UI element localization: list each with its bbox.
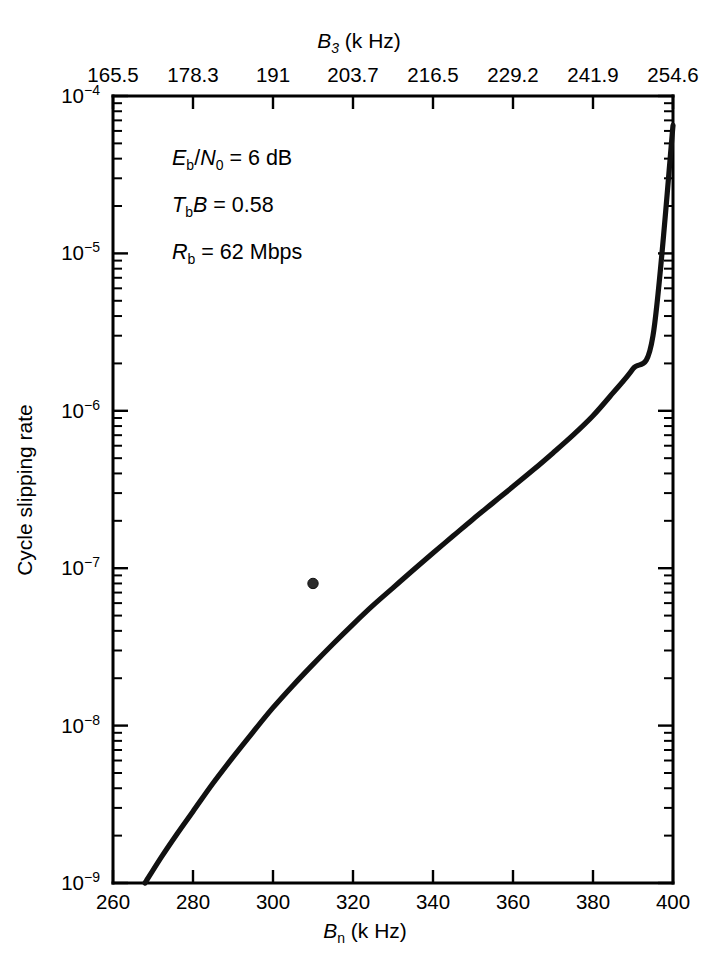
bottom-axis-title-symbol: B [323,919,337,942]
cycle-slipping-rate-chart: B3 (k Hz) 165.5178.3191203.7216.5229.224… [0,0,718,975]
left-tick-label-0: 10−4 [61,82,100,107]
bottom-axis-title: Bn (k Hz) [323,919,407,946]
top-tick-label-5: 229.2 [487,63,538,86]
top-axis-title: B3 (k Hz) [317,29,401,56]
left-tick-label-5: 10−9 [61,869,100,894]
top-tick-label-4: 216.5 [407,63,458,86]
top-axis-title-subscript: 3 [331,40,339,56]
bottom-axis-title-unit: (k Hz) [345,919,407,942]
bottom-tick-label-1: 280 [176,890,210,913]
figure-container: B3 (k Hz) 165.5178.3191203.7216.5229.224… [0,0,718,975]
data-point-markers [308,578,318,588]
bottom-axis-ticks [113,870,673,883]
top-tick-label-2: 191 [256,63,290,86]
annotation-tbb: TbB = 0.58 [172,193,274,220]
annotation-ebn0: Eb/N0 = 6 dB [172,146,292,173]
bottom-tick-label-7: 400 [656,890,690,913]
top-tick-label-1: 178.3 [167,63,218,86]
left-tick-label-2: 10−6 [61,397,100,422]
left-axis-major-ticks [113,96,128,883]
top-tick-label-7: 254.6 [647,63,698,86]
annotation-block: Eb/N0 = 6 dB TbB = 0.58 Rb = 62 Mbps [172,146,302,267]
bottom-tick-label-3: 320 [336,890,370,913]
y-axis-title: Cycle slipping rate [13,404,36,576]
bottom-tick-label-4: 340 [416,890,450,913]
bottom-tick-label-5: 360 [496,890,530,913]
left-axis-tick-labels: 10−410−510−610−710−810−9 [61,82,100,894]
bottom-tick-label-0: 260 [96,890,130,913]
top-tick-label-3: 203.7 [327,63,378,86]
bottom-axis-title-subscript: n [337,930,345,946]
top-axis-title-symbol: B [317,29,331,52]
y-axis-title-text: Cycle slipping rate [13,404,36,576]
top-axis-ticks [113,96,673,109]
left-tick-label-4: 10−8 [61,712,100,737]
left-tick-label-3: 10−7 [61,554,100,579]
top-tick-label-6: 241.9 [567,63,618,86]
top-axis-tick-labels: 165.5178.3191203.7216.5229.2241.9254.6 [87,63,698,86]
bottom-tick-label-6: 380 [576,890,610,913]
bottom-tick-label-2: 300 [256,890,290,913]
svg-text:Bn (k Hz): Bn (k Hz) [323,919,407,946]
data-point-marker-0 [308,578,318,588]
bottom-axis-tick-labels: 260280300320340360380400 [96,890,690,913]
left-tick-label-1: 10−5 [61,239,100,264]
top-axis-title-unit: (k Hz) [339,29,401,52]
svg-text:B3 (k Hz): B3 (k Hz) [317,29,401,56]
annotation-rb: Rb = 62 Mbps [172,240,302,267]
